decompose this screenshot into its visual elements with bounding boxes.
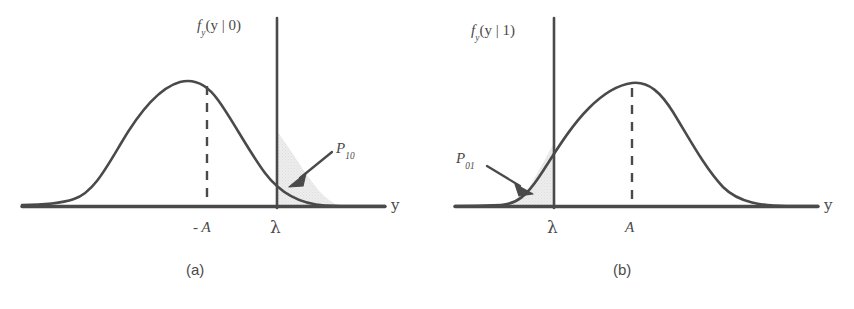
panel-b: fy(y | 1) P01 λ A y (b)	[427, 0, 854, 309]
prob-label-a-symbol: P	[336, 140, 345, 156]
tick-label-a-threshold: λ	[270, 219, 281, 236]
tick-label-a-mean: - A	[193, 220, 211, 235]
density-label-b: fy(y | 1)	[471, 23, 515, 41]
density-label-a-subscript: y	[201, 28, 205, 38]
density-curve-a	[22, 81, 385, 206]
prob-label-b: P01	[456, 151, 475, 169]
prob-label-b-symbol: P	[456, 150, 465, 166]
panel-a: fy(y | 0) P10 - A λ y (a)	[0, 0, 427, 309]
tick-label-b-threshold: λ	[547, 219, 558, 236]
annotation-arrow-b	[487, 166, 533, 196]
density-label-b-subscript: y	[475, 33, 479, 43]
figure-root: fy(y | 0) P10 - A λ y (a)	[0, 0, 854, 309]
density-curve-b	[455, 83, 818, 206]
prob-label-b-subscript: 01	[465, 161, 475, 171]
tick-label-b-mean: A	[625, 220, 634, 235]
caption-b: (b)	[613, 262, 631, 277]
density-label-a-argument: (y | 0)	[206, 17, 242, 33]
panel-a-plot	[0, 0, 427, 309]
shaded-tail-region-a	[277, 131, 338, 206]
shaded-tail-region-b	[511, 143, 554, 206]
density-label-a: fy(y | 0)	[197, 18, 241, 36]
panel-b-plot	[427, 0, 854, 309]
axis-name-b: y	[824, 198, 832, 213]
prob-label-a-subscript: 10	[345, 151, 355, 161]
density-label-b-argument: (y | 1)	[480, 22, 516, 38]
prob-label-a: P10	[336, 141, 355, 159]
caption-a: (a)	[186, 262, 204, 277]
axis-name-a: y	[391, 198, 399, 213]
